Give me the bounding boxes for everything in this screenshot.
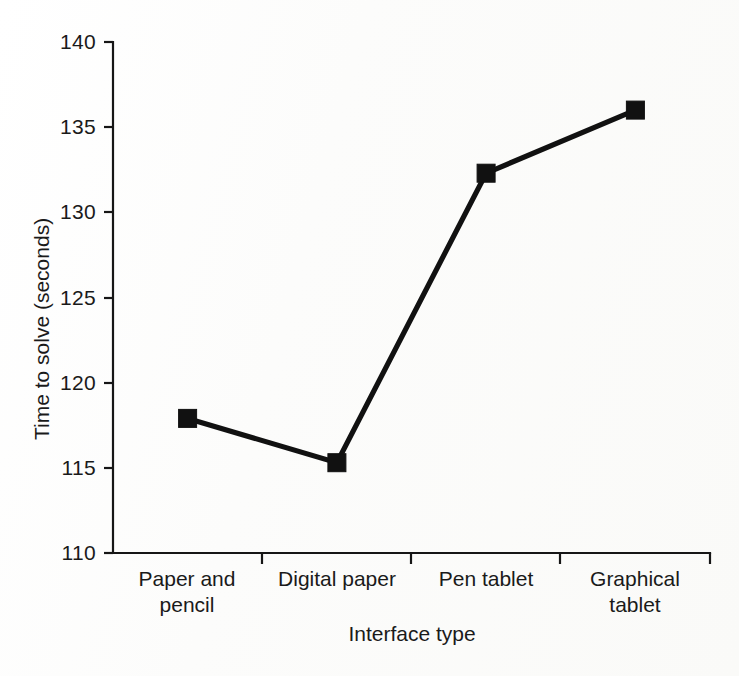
chart-page: 140 135 130 125 120 115 110 Paper and pe…: [0, 0, 739, 676]
x-category-label-digital-paper: Digital paper: [262, 566, 412, 592]
y-tick-label: 135: [34, 115, 96, 139]
x-category-label-paper-and-pencil: Paper and pencil: [112, 566, 262, 618]
y-tick-marks: [104, 42, 113, 553]
line-chart: 140 135 130 125 120 115 110 Paper and pe…: [0, 0, 739, 676]
y-axis-title: Time to solve (seconds): [30, 218, 54, 440]
data-point-marker: [179, 409, 197, 427]
data-point-marker: [626, 101, 644, 119]
x-tick-marks: [262, 553, 710, 564]
y-tick-label: 140: [34, 30, 96, 54]
x-category-label-graphical-tablet: Graphical tablet: [560, 566, 710, 618]
x-category-label-pen-tablet: Pen tablet: [411, 566, 561, 592]
x-category-label-line2: tablet: [560, 592, 710, 618]
x-category-label-line1: Pen tablet: [411, 566, 561, 592]
x-axis-title: Interface type: [262, 622, 562, 646]
x-category-label-line1: Graphical: [560, 566, 710, 592]
data-point-marker: [477, 164, 495, 182]
x-category-label-line1: Digital paper: [262, 566, 412, 592]
x-category-label-line2: pencil: [112, 592, 262, 618]
x-category-label-line1: Paper and: [112, 566, 262, 592]
data-series-line: [188, 110, 636, 463]
y-tick-label: 115: [34, 456, 96, 480]
data-point-markers: [179, 101, 645, 472]
y-tick-label: 110: [34, 541, 96, 565]
data-point-marker: [328, 454, 346, 472]
